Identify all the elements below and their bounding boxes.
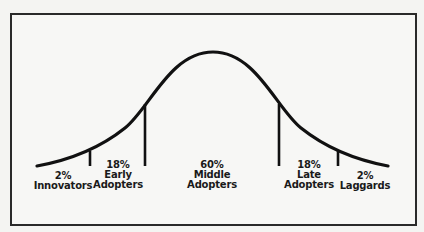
bell-curve-path	[37, 52, 388, 166]
segment-name-2: Adopters	[284, 180, 334, 190]
segment-name-2: Adopters	[93, 180, 143, 190]
segment-label-middle-adopters: 60% Middle Adopters	[187, 160, 237, 190]
segment-name: Innovators	[34, 181, 93, 191]
segment-name: Laggards	[340, 181, 391, 191]
segment-label-late-adopters: 18% Late Adopters	[284, 160, 334, 190]
segment-name-2: Adopters	[187, 180, 237, 190]
segment-label-laggards: 2% Laggards	[340, 171, 391, 191]
segment-label-early-adopters: 18% Early Adopters	[93, 160, 143, 190]
bell-curve	[0, 0, 424, 232]
segment-label-innovators: 2% Innovators	[34, 171, 93, 191]
